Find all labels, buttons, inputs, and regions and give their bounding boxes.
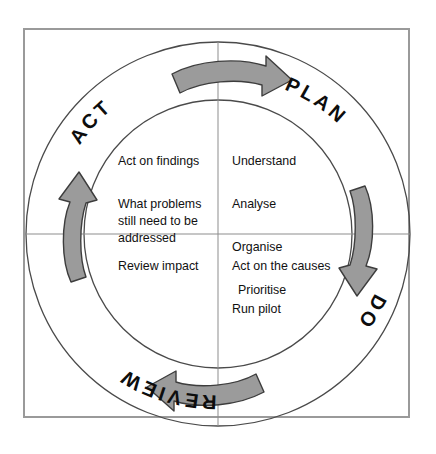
ring-label-plan: PLAN (282, 73, 352, 129)
quadrant-text-do: Act on the causes Run pilot (232, 241, 352, 335)
plan-item-1: Analyse (232, 196, 342, 213)
ring-label-act: ACT (65, 95, 116, 148)
do-item-1: Run pilot (232, 301, 352, 318)
act-item-1: What problems still need to be addressed (118, 196, 218, 247)
review-item-0: Review impact (118, 258, 218, 275)
diagram-page: PLAN DO REVIEW ACT Act on findings What … (0, 0, 436, 454)
act-item-0: Act on findings (118, 153, 218, 170)
plan-item-0: Understand (232, 153, 342, 170)
arrow-clockwise-top (172, 56, 292, 96)
quadrant-text-review: Review impact (118, 241, 218, 292)
cycle-wheel: PLAN DO REVIEW ACT (0, 0, 436, 454)
do-item-0: Act on the causes (232, 258, 352, 275)
